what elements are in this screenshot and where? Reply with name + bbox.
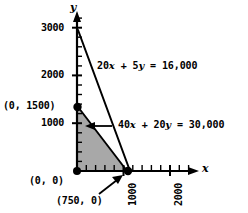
equation-lower-coefficient-a: 40 — [118, 119, 130, 130]
x-axis-label: x — [202, 163, 209, 174]
point-label-y-intercept: (0, 1500) — [3, 101, 55, 111]
equation-upper-coefficient-a: 20 — [97, 60, 109, 71]
equation-lower-rhs: = 30,000 — [171, 119, 224, 130]
point-label-x-intercept: (750, 0) — [56, 196, 103, 206]
y-tick-label-3000: 3000 — [41, 23, 64, 33]
x-tick-label-2000: 2000 — [174, 183, 184, 206]
y-tick-label-2000: 2000 — [41, 70, 64, 80]
equation-upper-rhs: = 16,000 — [144, 60, 197, 71]
y-axis-label: y — [70, 2, 76, 13]
x-tick-label-1000: 1000 — [128, 183, 138, 206]
y-tick-label-1000: 1000 — [41, 118, 64, 128]
point-marker-y-intercept — [73, 103, 81, 111]
point-label-origin: (0, 0) — [29, 176, 64, 186]
equation-label-upper: 20x + 5y = 16,000 — [97, 61, 197, 71]
point-marker-x-intercept — [124, 167, 132, 175]
point-marker-origin — [73, 167, 81, 175]
x-axis-arrowhead — [188, 167, 199, 175]
leader-arrow-x-intercept — [99, 175, 123, 194]
equation-upper-operator: + 5 — [115, 60, 139, 71]
equation-label-lower: 40x + 20y = 30,000 — [118, 120, 224, 130]
linear-programming-figure: y x 3000 2000 1000 1000 2000 (0, 1500) (… — [0, 0, 248, 213]
equation-lower-operator: + 20 — [136, 119, 166, 130]
